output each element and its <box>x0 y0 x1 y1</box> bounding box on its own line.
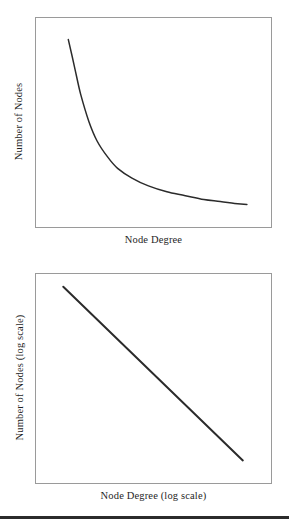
power-law-line-loglog <box>36 274 271 483</box>
chart-panel-linear: Number of Nodes Node Degree <box>0 0 289 252</box>
power-law-curve-linear <box>36 18 271 227</box>
plot-area-linear <box>35 17 272 228</box>
line-path <box>63 287 243 461</box>
curve-path <box>68 40 247 205</box>
chart-panel-loglog: Number of Nodes (log scale) Node Degree … <box>0 256 289 508</box>
plot-area-loglog <box>35 273 272 484</box>
y-axis-label-loglog: Number of Nodes (log scale) <box>14 298 25 458</box>
power-law-figure: Number of Nodes Node Degree Number of No… <box>0 0 289 530</box>
y-axis-label-linear: Number of Nodes <box>13 57 24 187</box>
footer-divider-rule <box>0 516 289 519</box>
x-axis-label-loglog: Node Degree (log scale) <box>35 490 272 501</box>
x-axis-label-linear: Node Degree <box>35 234 272 245</box>
